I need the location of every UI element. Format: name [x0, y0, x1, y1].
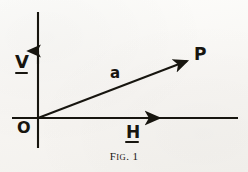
caption-suffix: . 1: [126, 150, 138, 162]
figure-caption: FIG. 1: [0, 150, 248, 162]
figure-page: V H O a P FIG. 1: [0, 0, 248, 172]
horizontal-axis-label: H: [126, 124, 140, 141]
horizontal-axis-label-underbar: [125, 141, 139, 143]
origin-label: O: [17, 120, 31, 136]
vertical-axis-label: V: [15, 53, 29, 71]
caption-smallcaps: IG: [116, 152, 126, 162]
vector-diagram: [0, 0, 248, 172]
vector-a-label: a: [110, 66, 120, 81]
vertical-axis-label-underbar: [15, 72, 28, 74]
point-p-label: P: [194, 46, 206, 63]
